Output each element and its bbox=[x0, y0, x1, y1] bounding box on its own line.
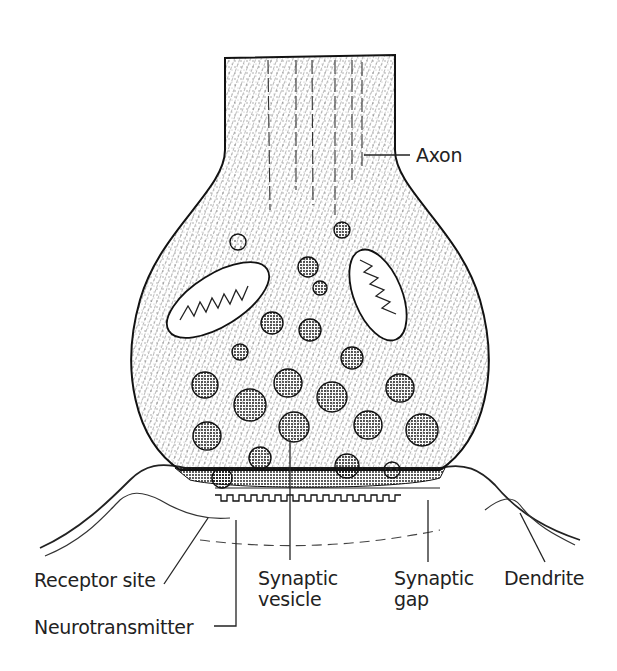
label-synaptic-gap-line1: Synaptic bbox=[394, 568, 474, 589]
label-synaptic-gap-line2: gap bbox=[394, 589, 474, 610]
label-receptor-site: Receptor site bbox=[34, 570, 156, 591]
dendrite-leader bbox=[520, 513, 545, 562]
neurotransmitter-leader bbox=[214, 520, 236, 626]
label-axon: Axon bbox=[416, 145, 462, 166]
label-neurotransmitter: Neurotransmitter bbox=[34, 617, 193, 638]
receptor-leader bbox=[164, 518, 208, 584]
label-dendrite: Dendrite bbox=[504, 568, 584, 589]
label-synaptic-gap: Synaptic gap bbox=[394, 568, 474, 610]
label-synaptic-vesicle-line2: vesicle bbox=[258, 589, 338, 610]
label-synaptic-vesicle-line1: Synaptic bbox=[258, 568, 338, 589]
label-synaptic-vesicle: Synaptic vesicle bbox=[258, 568, 338, 610]
